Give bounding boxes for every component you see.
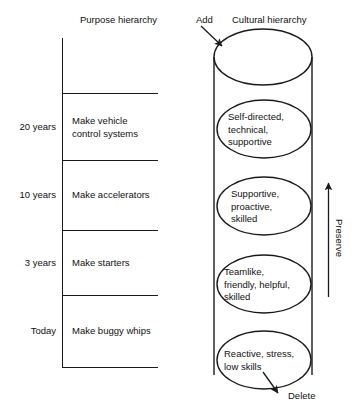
purpose-row-text-today: Make buggy whips: [72, 325, 162, 338]
preserve-label: Preserve: [334, 219, 345, 257]
purpose-timeframe-10-years: 10 years: [0, 189, 56, 201]
cultural-hierarchy-header: Cultural hierarchy: [232, 14, 306, 26]
add-arrow: [201, 26, 222, 46]
diagram-canvas: Purpose hierarchy Add Cultural hierarchy…: [0, 0, 356, 412]
cylinder-top-ellipse: [214, 29, 312, 85]
culture-level-text-1: Self-directed, technical, supportive: [228, 111, 314, 149]
culture-level-text-3: Teamlike, friendly, helpful, skilled: [224, 266, 316, 304]
culture-level-text-2: Supportive, proactive, skilled: [231, 188, 317, 226]
purpose-row-text-20-years: Make vehicle control systems: [72, 115, 162, 140]
purpose-row-text-3-years: Make starters: [72, 257, 162, 270]
purpose-hierarchy-grid: [62, 38, 158, 368]
purpose-timeframe-20-years: 20 years: [0, 121, 56, 133]
purpose-hierarchy-header: Purpose hierarchy: [80, 14, 157, 26]
add-label: Add: [196, 14, 213, 26]
purpose-row-text-10-years: Make accelerators: [72, 189, 162, 202]
purpose-timeframe-3-years: 3 years: [0, 257, 56, 269]
delete-arrow: [263, 372, 278, 393]
purpose-timeframe-today: Today: [0, 325, 56, 337]
culture-level-text-4: Reactive, stress, low skills: [224, 348, 316, 373]
delete-label: Delete: [288, 390, 315, 402]
